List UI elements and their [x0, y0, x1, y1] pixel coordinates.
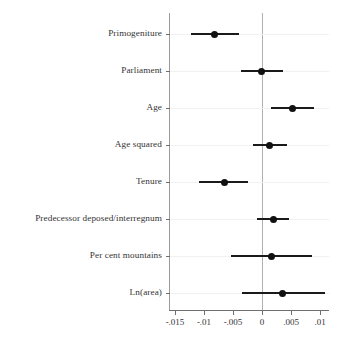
y-axis-label-column: PrimogenitureParliamentAgeAge squaredTen…	[0, 0, 162, 346]
y-tick-per-cent-mountains	[166, 256, 170, 257]
x-axis-tick-label-2: -.005	[224, 317, 243, 328]
point-estimate-parliament	[258, 68, 265, 75]
y-axis-label-per-cent-mountains: Per cent mountains	[90, 250, 162, 260]
point-estimate-ln-area	[279, 290, 286, 297]
point-estimate-tenure	[221, 179, 228, 186]
y-axis-label-age-squared: Age squared	[115, 139, 162, 149]
x-axis-tick-label-4: .005	[283, 317, 299, 328]
y-tick-predecessor-deposed-interregnum	[166, 219, 170, 220]
gridline-age-squared	[170, 145, 329, 146]
plot-area	[169, 13, 329, 311]
x-tick-0	[175, 311, 176, 315]
point-estimate-age-squared	[266, 142, 273, 149]
gridline-predecessor-deposed-interregnum	[170, 219, 329, 220]
y-tick-primogeniture	[166, 34, 170, 35]
y-axis-label-ln-area: Ln(area)	[130, 287, 162, 297]
x-tick-1	[204, 311, 205, 315]
y-tick-tenure	[166, 182, 170, 183]
x-axis-tick-label-0: -.015	[166, 317, 185, 328]
x-axis-tick-label-3: 0	[260, 317, 265, 328]
y-axis-label-primogeniture: Primogeniture	[108, 28, 162, 38]
x-tick-2	[233, 311, 234, 315]
x-tick-4	[291, 311, 292, 315]
point-estimate-age	[289, 105, 296, 112]
point-estimate-predecessor-deposed-interregnum	[270, 216, 277, 223]
x-tick-5	[320, 311, 321, 315]
y-tick-age-squared	[166, 145, 170, 146]
coefficient-plot: PrimogenitureParliamentAgeAge squaredTen…	[0, 0, 344, 346]
x-tick-3	[262, 311, 263, 315]
y-tick-ln-area	[166, 293, 170, 294]
x-axis-tick-label-5: .01	[314, 317, 325, 328]
y-axis-label-parliament: Parliament	[121, 65, 162, 75]
y-tick-age	[166, 108, 170, 109]
point-estimate-per-cent-mountains	[268, 253, 275, 260]
y-axis-label-predecessor-deposed-interregnum: Predecessor deposed/interregnum	[35, 213, 162, 223]
x-axis-tick-label-1: -.01	[197, 317, 211, 328]
point-estimate-primogeniture	[211, 31, 218, 38]
gridline-tenure	[170, 182, 329, 183]
y-axis-label-tenure: Tenure	[136, 176, 162, 186]
y-tick-parliament	[166, 71, 170, 72]
y-axis-label-age: Age	[146, 102, 162, 112]
